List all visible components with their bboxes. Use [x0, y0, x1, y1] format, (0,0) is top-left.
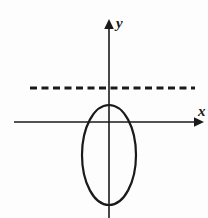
graph-figure: y x — [0, 0, 208, 218]
y-axis-label: y — [114, 15, 123, 31]
figure-canvas: y x — [0, 0, 208, 218]
y-axis-arrowhead-icon — [104, 19, 114, 29]
x-axis-label: x — [197, 103, 206, 119]
